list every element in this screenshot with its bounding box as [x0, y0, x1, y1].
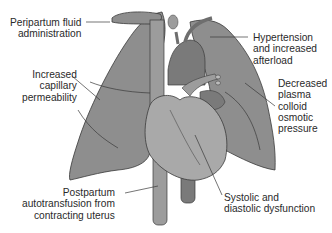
label-decreased-oncotic-pressure: Decreased plasma colloid osmotic pressur… [278, 78, 327, 134]
label-systolic-diastolic-dysfunction: Systolic and diastolic dysfunction [224, 192, 315, 215]
label-peripartum-fluid: Peripartum fluid administration [10, 17, 81, 40]
label-postpartum-autotransfusion: Postpartum autotransfusion from contract… [22, 187, 115, 221]
label-hypertension-afterload: Hypertension and increased afterload [253, 32, 317, 66]
label-increased-capillary-permeability: Increased capillary permeability [22, 69, 77, 103]
